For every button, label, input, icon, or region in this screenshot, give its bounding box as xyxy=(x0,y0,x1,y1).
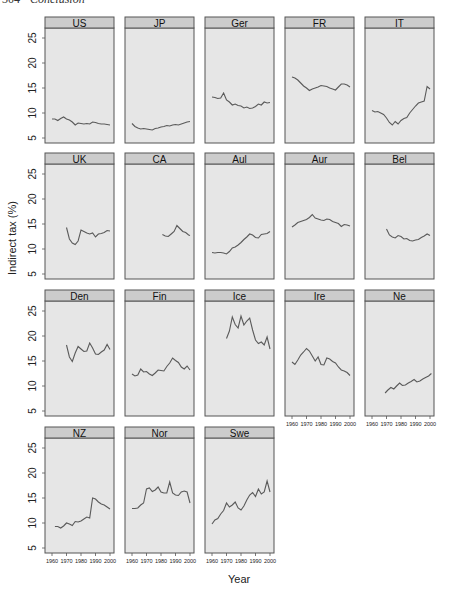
y-tick-label: 15 xyxy=(27,218,38,230)
x-tick-label: 1980 xyxy=(315,421,327,427)
x-tick-label: 1960 xyxy=(286,421,298,427)
x-tick-label: 2000 xyxy=(184,558,196,564)
y-tick-label: 5 xyxy=(27,135,38,141)
panel-title: Aur xyxy=(312,154,328,165)
panel-title: US xyxy=(73,18,87,29)
y-tick-label: 10 xyxy=(27,243,38,255)
x-tick-label: 1960 xyxy=(206,558,218,564)
x-tick-label: 1990 xyxy=(409,421,421,427)
panel-den: Den510152025 xyxy=(27,290,114,416)
y-tick-label: 20 xyxy=(27,193,38,205)
panel-title: Swe xyxy=(230,428,250,439)
x-tick-label: 1970 xyxy=(380,421,392,427)
y-tick-label: 5 xyxy=(27,545,38,551)
y-tick-label: 20 xyxy=(27,57,38,69)
panel-uk: UK510152025 xyxy=(27,153,114,279)
panel-ne: Ne19601970198019902000 xyxy=(365,290,436,427)
panel-fr: FR xyxy=(285,17,354,143)
panel-us: US510152025 xyxy=(27,17,114,143)
x-tick-label: 1970 xyxy=(140,558,152,564)
panel-aur: Aur xyxy=(285,153,354,279)
x-tick-label: 1980 xyxy=(235,558,247,564)
panel-title: Nor xyxy=(151,428,168,439)
y-tick-label: 20 xyxy=(27,467,38,479)
x-tick-label: 2000 xyxy=(344,421,356,427)
y-tick-label: 25 xyxy=(27,168,38,180)
y-tick-label: 15 xyxy=(27,492,38,504)
panel-it: IT xyxy=(365,17,434,143)
panel-jp: JP xyxy=(125,17,194,143)
x-tick-label: 1980 xyxy=(75,558,87,564)
panel-ire: Ire19601970198019902000 xyxy=(285,290,356,427)
y-tick-label: 25 xyxy=(27,442,38,454)
x-tick-label: 1960 xyxy=(366,421,378,427)
x-tick-label: 1960 xyxy=(46,558,58,564)
y-tick-label: 5 xyxy=(27,271,38,277)
x-axis-label: Year xyxy=(228,573,250,585)
x-tick-label: 2000 xyxy=(104,558,116,564)
panel-title: NZ xyxy=(73,428,86,439)
panel-ice: Ice xyxy=(205,290,274,416)
x-tick-label: 1970 xyxy=(300,421,312,427)
panel-title: Den xyxy=(70,291,88,302)
panel-title: Ice xyxy=(233,291,247,302)
x-tick-label: 2000 xyxy=(264,558,276,564)
panel-ca: CA xyxy=(125,153,194,279)
panel-nz: NZ51015202519601970198019902000 xyxy=(27,427,116,564)
y-tick-label: 15 xyxy=(27,82,38,94)
panel-title: Ger xyxy=(231,18,248,29)
panel-title: Ire xyxy=(314,291,326,302)
x-tick-label: 1960 xyxy=(126,558,138,564)
y-tick-label: 5 xyxy=(27,408,38,414)
panel-title: Bel xyxy=(392,154,406,165)
x-tick-label: 1980 xyxy=(395,421,407,427)
panel-title: UK xyxy=(73,154,87,165)
panel-title: FR xyxy=(313,18,326,29)
y-tick-label: 15 xyxy=(27,355,38,367)
panel-ger: Ger xyxy=(205,17,274,143)
x-tick-label: 1990 xyxy=(169,558,181,564)
small-multiples-chart: US510152025JPGerFRITUK510152025CAAulAurB… xyxy=(0,0,450,595)
panel-nor: Nor19601970198019902000 xyxy=(125,427,196,564)
y-tick-label: 25 xyxy=(27,305,38,317)
y-tick-label: 10 xyxy=(27,380,38,392)
panel-title: Aul xyxy=(232,154,246,165)
panel-aul: Aul xyxy=(205,153,274,279)
panel-title: CA xyxy=(153,154,167,165)
x-tick-label: 1990 xyxy=(329,421,341,427)
y-tick-label: 10 xyxy=(27,107,38,119)
x-tick-label: 1980 xyxy=(155,558,167,564)
y-axis-label: Indirect tax (%) xyxy=(6,201,18,275)
x-tick-label: 1970 xyxy=(220,558,232,564)
panel-title: IT xyxy=(395,18,404,29)
panel-fin: Fin xyxy=(125,290,194,416)
x-tick-label: 1970 xyxy=(60,558,72,564)
panel-title: JP xyxy=(154,18,166,29)
panel-title: Ne xyxy=(393,291,406,302)
y-tick-label: 20 xyxy=(27,330,38,342)
panel-swe: Swe19601970198019902000 xyxy=(205,427,276,564)
x-tick-label: 1990 xyxy=(249,558,261,564)
panel-title: Fin xyxy=(153,291,167,302)
x-tick-label: 2000 xyxy=(424,421,436,427)
x-tick-label: 1990 xyxy=(89,558,101,564)
panel-bel: Bel xyxy=(365,153,434,279)
y-tick-label: 25 xyxy=(27,32,38,44)
y-tick-label: 10 xyxy=(27,517,38,529)
